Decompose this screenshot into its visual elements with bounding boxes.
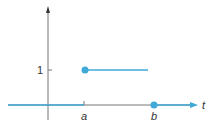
y-axis-arrow-icon [46,6,50,13]
step-function-chart: 1 a b t [0,0,215,130]
x-tick-label-b: b [151,110,157,122]
closed-dot-a [82,67,89,74]
x-axis-label: t [202,99,206,111]
x-axis-arrow-icon [190,102,198,108]
y-tick-label-1: 1 [37,64,43,76]
closed-dot-b [151,102,158,109]
x-tick-label-a: a [81,110,87,122]
